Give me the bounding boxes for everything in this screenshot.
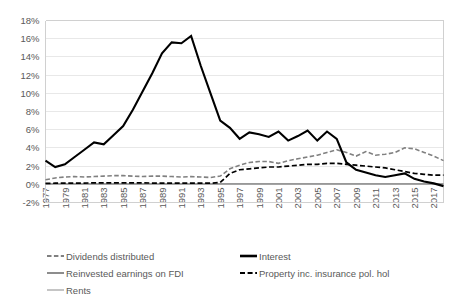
y-axis-tick-label: 16%: [20, 33, 40, 44]
y-axis-labels-group: 18%16%14%12%10%8%6%4%2%0%-2%: [20, 15, 40, 208]
x-axis-tick-label: 1993: [195, 187, 206, 208]
x-axis-tick-label: 2015: [409, 187, 420, 208]
gridlines-group: [46, 21, 444, 203]
x-axis-tick-label: 2001: [273, 187, 284, 208]
y-axis-tick-label: 10%: [20, 88, 40, 99]
x-axis-tick-label: 2013: [390, 187, 401, 208]
x-axis-tick-label: 1991: [176, 187, 187, 208]
y-axis-tick-label: -2%: [23, 197, 40, 208]
x-axis-labels-group: 1977197919811983198519871989199119931995…: [40, 187, 439, 208]
x-axis-tick-label: 2011: [370, 188, 381, 208]
chart-container: 18%16%14%12%10%8%6%4%2%0%-2% 19771979198…: [0, 0, 453, 306]
legend-item[interactable]: Rents: [47, 285, 91, 296]
y-axis-tick-label: 14%: [20, 51, 40, 62]
legend-item[interactable]: Property inc. insurance pol. hol: [240, 268, 389, 279]
y-axis-tick-label: 12%: [20, 70, 40, 81]
y-axis-tick-label: 0%: [26, 179, 40, 190]
line-chart: 18%16%14%12%10%8%6%4%2%0%-2% 19771979198…: [0, 0, 453, 306]
x-axis-tick-label: 2003: [292, 187, 303, 208]
y-axis-tick-label: 6%: [26, 124, 40, 135]
x-axis-tick-label: 1997: [234, 187, 245, 208]
series-line-dividends-distributed: [46, 148, 444, 180]
legend-item-label: Rents: [66, 285, 91, 296]
x-axis-tick-label: 1981: [79, 187, 90, 208]
x-axis-tick-label: 1983: [98, 187, 109, 208]
y-axis-tick-label: 4%: [26, 142, 40, 153]
x-axis-tick-label: 2005: [312, 187, 323, 208]
x-axis-tick-label: 1979: [60, 187, 71, 208]
legend-item-label: Interest: [259, 251, 291, 262]
x-axis-tick-label: 2017: [428, 187, 439, 208]
x-axis-tick-label: 2007: [331, 187, 342, 208]
legend-item[interactable]: Interest: [240, 251, 291, 262]
x-axis-tick-label: 2009: [351, 187, 362, 208]
x-axis-tick-label: 1985: [118, 187, 129, 208]
y-axis-tick-label: 2%: [26, 161, 40, 172]
x-axis-tick-label: 1989: [157, 187, 168, 208]
x-axis-tick-label: 1999: [254, 187, 265, 208]
legend-item-label: Property inc. insurance pol. hol: [259, 268, 389, 279]
legend-item-label: Reinvested earnings on FDI: [66, 268, 184, 279]
x-axis-tick-label: 1995: [215, 187, 226, 208]
legend-item[interactable]: Reinvested earnings on FDI: [47, 268, 184, 279]
legend-item[interactable]: Dividends distributed: [47, 251, 154, 262]
x-axis-tick-label: 1987: [137, 187, 148, 208]
y-axis-tick-label: 8%: [26, 106, 40, 117]
y-axis-tick-label: 18%: [20, 15, 40, 26]
chart-legend: Dividends distributedInterestReinvested …: [47, 251, 389, 296]
legend-item-label: Dividends distributed: [66, 251, 154, 262]
